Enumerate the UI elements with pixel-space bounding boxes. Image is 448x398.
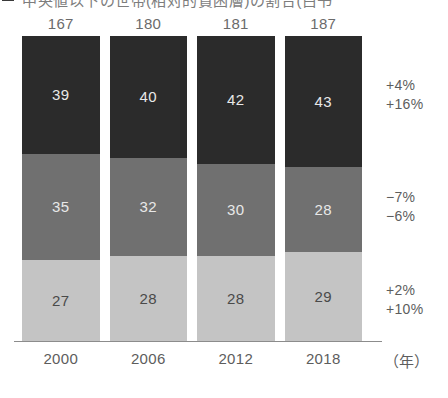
segment-bottom-2006[interactable]: 28 — [110, 256, 188, 341]
x-tick-2: 2012 — [197, 350, 275, 367]
segment-mid-2018[interactable]: 28 — [285, 167, 363, 252]
segment-value: 28 — [285, 201, 363, 218]
annotation-line: +2% — [386, 281, 448, 300]
segment-mid-2012[interactable]: 30 — [197, 164, 275, 256]
annotation-bottom-segment: +2% +10% — [386, 281, 448, 319]
annotation-line: +10% — [386, 300, 448, 319]
segment-value: 27 — [22, 292, 100, 309]
x-tick-0: 2000 — [22, 350, 100, 367]
segment-value: 30 — [197, 201, 275, 218]
bar-2018[interactable]: 43 28 29 — [285, 36, 363, 341]
stacked-bar-chart: 167 180 181 187 39 35 27 40 32 28 42 30 — [0, 0, 448, 398]
bar-total-3: 187 — [285, 15, 363, 32]
segment-value: 40 — [110, 88, 188, 105]
x-axis-line — [14, 341, 382, 342]
annotation-mid-segment: −7% −6% — [386, 188, 448, 226]
segment-value: 43 — [285, 93, 363, 110]
annotation-top-segment: +4% +16% — [386, 76, 448, 114]
annotation-line: +4% — [386, 76, 448, 95]
annotation-line: −6% — [386, 207, 448, 226]
bar-2006[interactable]: 40 32 28 — [110, 36, 188, 341]
bar-2012[interactable]: 42 30 28 — [197, 36, 275, 341]
segment-top-2000[interactable]: 39 — [22, 36, 100, 154]
segment-value: 28 — [110, 290, 188, 307]
segment-value: 42 — [197, 91, 275, 108]
bar-total-2: 181 — [197, 15, 275, 32]
segment-value: 39 — [22, 86, 100, 103]
segment-bottom-2012[interactable]: 28 — [197, 256, 275, 341]
segment-top-2012[interactable]: 42 — [197, 36, 275, 164]
x-tick-1: 2006 — [110, 350, 188, 367]
segment-value: 28 — [197, 290, 275, 307]
segment-bottom-2000[interactable]: 27 — [22, 260, 100, 341]
bar-2000[interactable]: 39 35 27 — [22, 36, 100, 341]
segment-value: 32 — [110, 198, 188, 215]
annotation-line: +16% — [386, 95, 448, 114]
bar-total-0: 167 — [22, 15, 100, 32]
segment-bottom-2018[interactable]: 29 — [285, 252, 363, 341]
x-tick-3: 2018 — [285, 350, 363, 367]
annotation-line: −7% — [386, 188, 448, 207]
segment-mid-2000[interactable]: 35 — [22, 154, 100, 260]
bar-total-1: 180 — [110, 15, 188, 32]
segment-mid-2006[interactable]: 32 — [110, 158, 188, 256]
segment-value: 29 — [285, 288, 363, 305]
x-axis-unit-label: （年） — [384, 350, 429, 371]
segment-top-2018[interactable]: 43 — [285, 36, 363, 167]
segment-value: 35 — [22, 198, 100, 215]
segment-top-2006[interactable]: 40 — [110, 36, 188, 158]
